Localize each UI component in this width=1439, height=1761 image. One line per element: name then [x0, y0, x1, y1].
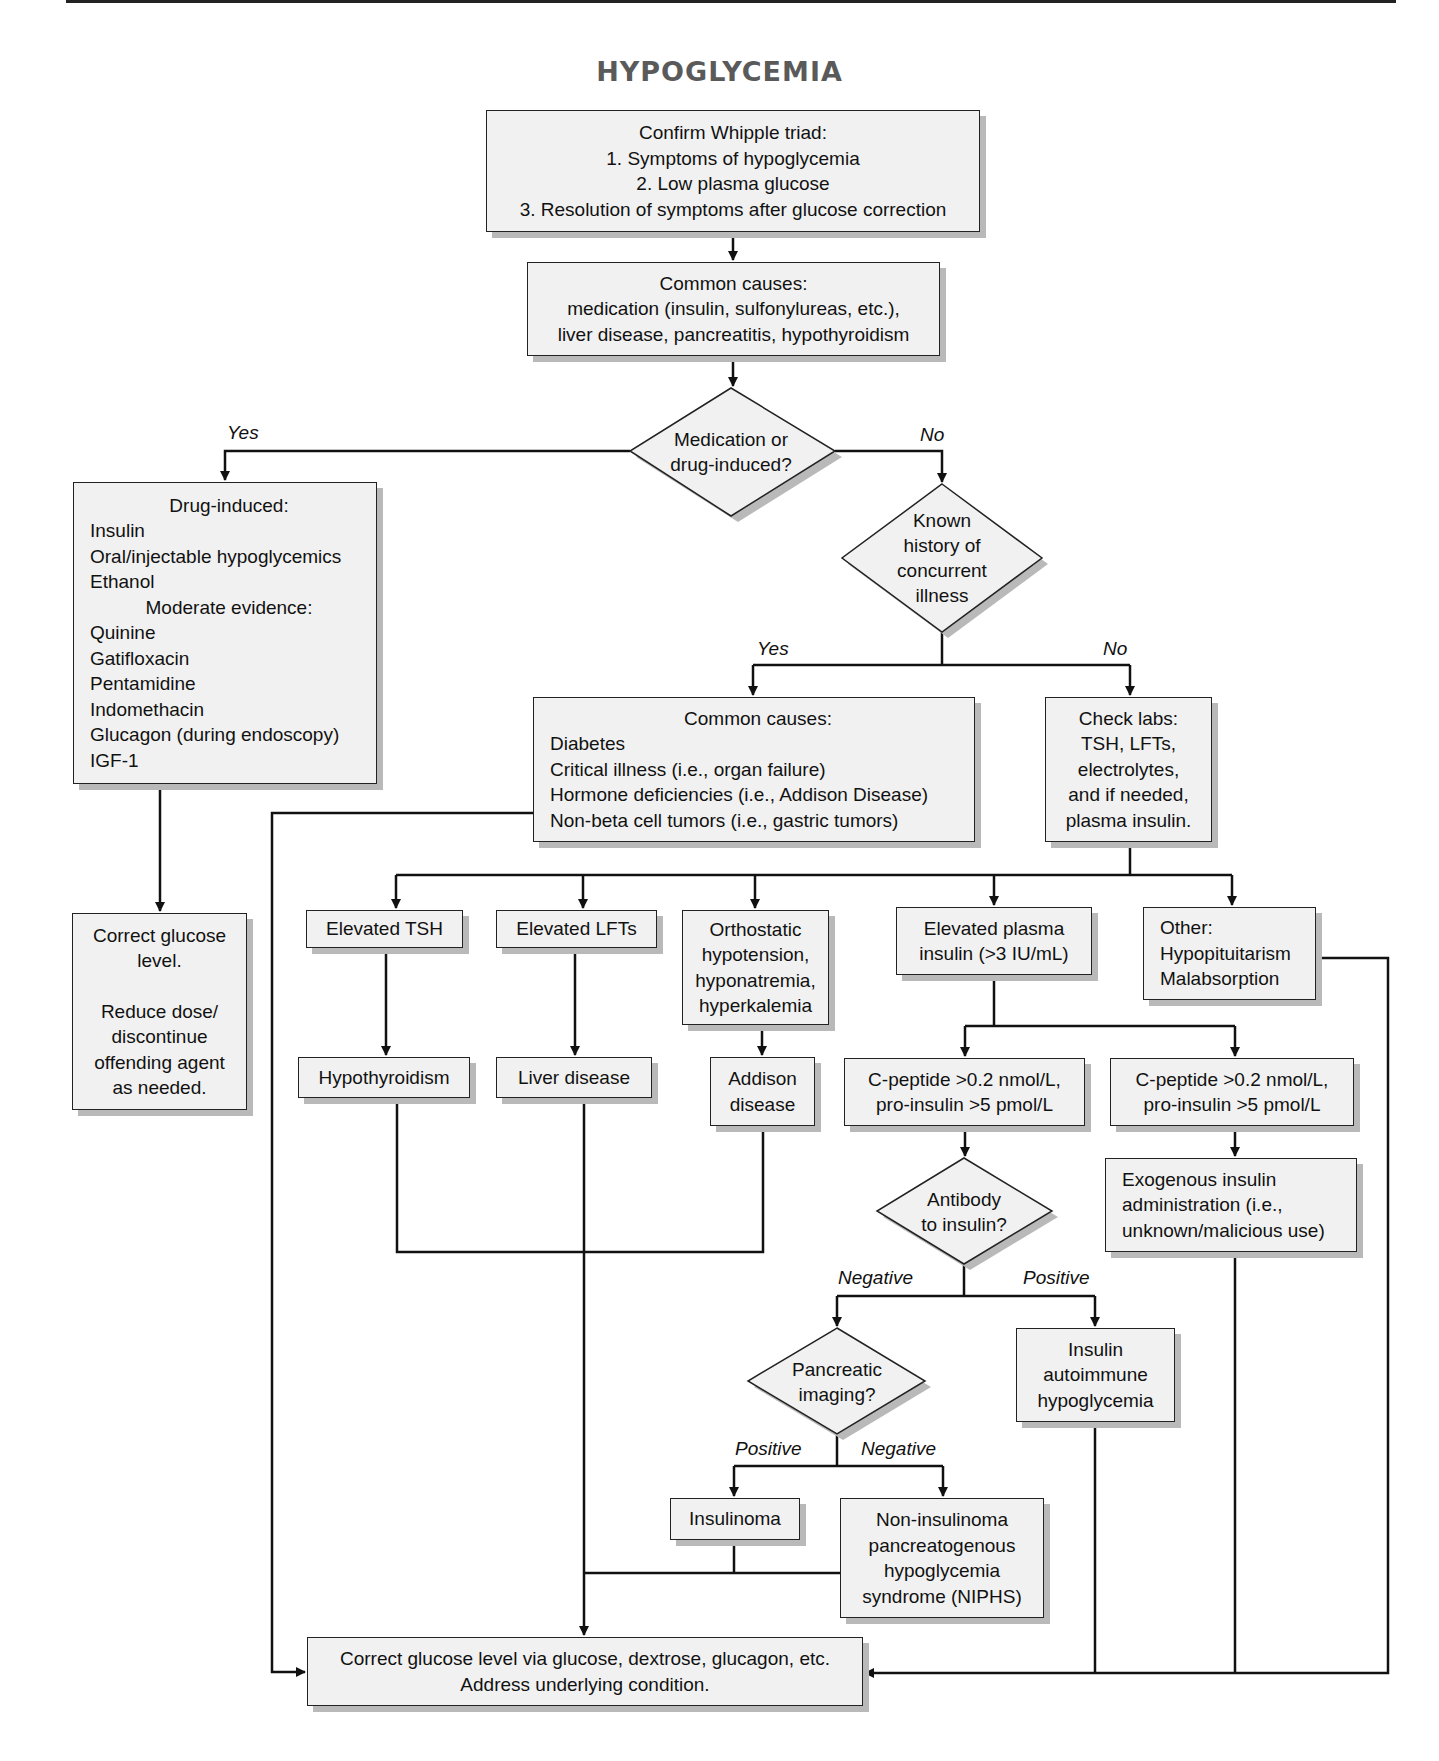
node-text: pro-insulin >5 pmol/L — [1144, 1092, 1321, 1118]
node-heading: Common causes: — [684, 706, 832, 732]
list-item: Hormone deficiencies (i.e., Addison Dise… — [550, 782, 928, 808]
elevated-insulin-box: Elevated plasma insulin (>3 IU/mL) — [896, 907, 1092, 975]
node-text: C-peptide >0.2 nmol/L, — [868, 1067, 1061, 1093]
node-text: hyperkalemia — [699, 993, 812, 1019]
node-text: insulin (>3 IU/mL) — [919, 941, 1068, 967]
list-item: Gatifloxacin — [90, 646, 189, 672]
node-text: Elevated TSH — [326, 916, 443, 942]
list-item: Quinine — [90, 620, 156, 646]
node-text: autoimmune — [1043, 1362, 1148, 1388]
decision-history: Known history of concurrent illness — [897, 508, 987, 608]
node-text: medication (insulin, sulfonylureas, etc.… — [567, 296, 900, 322]
node-text: Confirm Whipple triad: — [639, 120, 827, 146]
node-text: Medication or — [670, 427, 791, 452]
node-text: 2. Low plasma glucose — [636, 171, 829, 197]
orthostatic-box: Orthostatic hypotension, hyponatremia, h… — [682, 910, 829, 1025]
node-text: drug-induced? — [670, 452, 791, 477]
node-text: disease — [730, 1092, 796, 1118]
list-item: IGF-1 — [90, 748, 139, 774]
node-text: Hypopituitarism — [1160, 941, 1291, 967]
list-item: Ethanol — [90, 569, 154, 595]
list-item: Critical illness (i.e., organ failure) — [550, 757, 826, 783]
node-text: level. — [137, 948, 181, 974]
list-item: Oral/injectable hypoglycemics — [90, 544, 341, 570]
node-text: Check labs: — [1079, 706, 1178, 732]
common-causes-mid-box: Common causes: Diabetes Critical illness… — [533, 697, 975, 842]
edge-label-negative: Negative — [861, 1438, 936, 1460]
node-text: discontinue — [111, 1024, 207, 1050]
edge-label-yes: Yes — [757, 638, 789, 660]
decision-medication: Medication or drug-induced? — [670, 427, 791, 477]
node-text: as needed. — [112, 1075, 206, 1101]
node-text: Pancreatic — [792, 1357, 882, 1382]
list-item: Indomethacin — [90, 697, 204, 723]
node-text: Malabsorption — [1160, 966, 1279, 992]
node-text: Orthostatic — [710, 917, 802, 943]
cpeptide-box-b: C-peptide >0.2 nmol/L, pro-insulin >5 pm… — [1110, 1058, 1354, 1126]
node-text: 1. Symptoms of hypoglycemia — [606, 146, 859, 172]
drug-induced-box: Drug-induced: Insulin Oral/injectable hy… — [73, 482, 377, 784]
insulin-autoimmune-box: Insulin autoimmune hypoglycemia — [1016, 1328, 1175, 1422]
node-text: illness — [897, 583, 987, 608]
node-text: Correct glucose — [93, 923, 226, 949]
node-text: Other: — [1160, 915, 1213, 941]
node-text: TSH, LFTs, — [1081, 731, 1176, 757]
node-text: Liver disease — [518, 1065, 630, 1091]
node-text: offending agent — [94, 1050, 225, 1076]
other-causes-box: Other: Hypopituitarism Malabsorption — [1143, 907, 1316, 1000]
node-text: Hypothyroidism — [319, 1065, 450, 1091]
node-text: Elevated plasma — [924, 916, 1064, 942]
node-text: hypoglycemia — [884, 1558, 1000, 1584]
node-text: Insulinoma — [689, 1506, 781, 1532]
node-text: 3. Resolution of symptoms after glucose … — [520, 197, 947, 223]
node-text: Insulin — [1068, 1337, 1123, 1363]
cpeptide-box-a: C-peptide >0.2 nmol/L, pro-insulin >5 pm… — [844, 1058, 1085, 1126]
node-text: concurrent — [897, 558, 987, 583]
edge-label-no: No — [1103, 638, 1127, 660]
hypothyroidism-box: Hypothyroidism — [298, 1057, 470, 1098]
decision-imaging: Pancreatic imaging? — [792, 1357, 882, 1407]
elevated-tsh-box: Elevated TSH — [306, 910, 463, 948]
node-text: hypoglycemia — [1037, 1388, 1153, 1414]
node-text: hyponatremia, — [695, 968, 815, 994]
node-text: Antibody — [921, 1187, 1007, 1212]
list-item: Glucagon (during endoscopy) — [90, 722, 339, 748]
edge-label-yes: Yes — [227, 422, 259, 444]
node-text: plasma insulin. — [1066, 808, 1192, 834]
node-text: administration (i.e., — [1122, 1192, 1283, 1218]
node-text: Reduce dose/ — [101, 999, 218, 1025]
node-text: syndrome (NIPHS) — [862, 1584, 1021, 1610]
node-text: Elevated LFTs — [516, 916, 636, 942]
node-text: imaging? — [792, 1382, 882, 1407]
node-text: to insulin? — [921, 1212, 1007, 1237]
node-text: Address underlying condition. — [460, 1672, 709, 1698]
node-text: Non-insulinoma — [876, 1507, 1008, 1533]
node-text: history of — [897, 533, 987, 558]
node-text: Correct glucose level via glucose, dextr… — [340, 1646, 830, 1672]
edge-label-positive: Positive — [1023, 1267, 1090, 1289]
node-text: Known — [897, 508, 987, 533]
node-text: Exogenous insulin — [1122, 1167, 1276, 1193]
node-heading: Drug-induced: — [169, 493, 288, 519]
correct-glucose-left-box: Correct glucose level. Reduce dose/ disc… — [72, 913, 247, 1110]
list-item: Non-beta cell tumors (i.e., gastric tumo… — [550, 808, 898, 834]
insulinoma-box: Insulinoma — [670, 1498, 800, 1540]
node-text: unknown/malicious use) — [1122, 1218, 1325, 1244]
node-text: Addison — [728, 1066, 797, 1092]
addison-disease-box: Addison disease — [710, 1057, 815, 1126]
node-text: and if needed, — [1068, 782, 1188, 808]
decision-antibody: Antibody to insulin? — [921, 1187, 1007, 1237]
elevated-lfts-box: Elevated LFTs — [496, 910, 657, 948]
node-text: hypotension, — [702, 942, 810, 968]
check-labs-box: Check labs: TSH, LFTs, electrolytes, and… — [1045, 697, 1212, 842]
node-subheading: Moderate evidence: — [146, 595, 313, 621]
list-item: Diabetes — [550, 731, 625, 757]
edge-label-negative: Negative — [838, 1267, 913, 1289]
node-text: liver disease, pancreatitis, hypothyroid… — [558, 322, 910, 348]
niphs-box: Non-insulinoma pancreatogenous hypoglyce… — [840, 1498, 1044, 1618]
list-item: Insulin — [90, 518, 145, 544]
node-text: C-peptide >0.2 nmol/L, — [1136, 1067, 1329, 1093]
node-text: pro-insulin >5 pmol/L — [876, 1092, 1053, 1118]
common-causes-top-box: Common causes: medication (insulin, sulf… — [527, 262, 940, 356]
liver-disease-box: Liver disease — [496, 1057, 652, 1098]
